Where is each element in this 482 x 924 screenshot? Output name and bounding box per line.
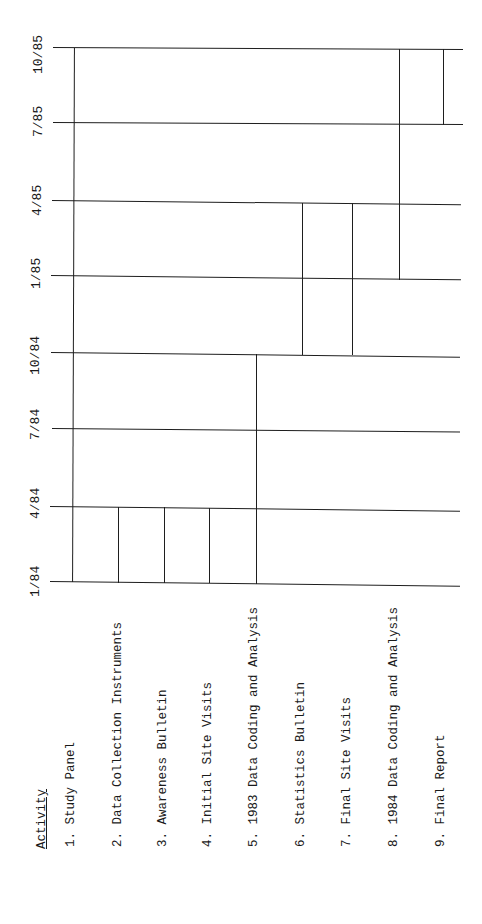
tick-label-1-84: 1/84: [28, 566, 43, 597]
activity-label-1: 1. Study Panel: [64, 742, 78, 847]
gridline-1-84: [50, 581, 460, 587]
tick-label-7-85: 7/85: [31, 106, 46, 137]
activity-label-4: 4. Initial Site Visits: [201, 682, 215, 847]
bar-initial-site-visits: [209, 508, 210, 583]
activity-heading: Activity: [35, 789, 49, 849]
gridline-7-85: [53, 122, 463, 125]
bar-statistics-bulletin: [302, 203, 303, 355]
activity-label-2: 2. Data Collection Instruments: [111, 622, 125, 847]
activity-label-8: 8. 1984 Data Coding and Analysis: [387, 607, 401, 847]
gridline-4-84: [50, 506, 460, 512]
activity-label-9: 9. Final Report: [434, 734, 448, 847]
bar-1983-data-coding: [256, 354, 257, 584]
bar-awareness-bulletin: [164, 507, 165, 583]
activity-label-7: 7. Final Site Visits: [340, 697, 354, 847]
tick-label-4-85: 4/85: [30, 185, 45, 216]
tick-label-10-85: 10/85: [31, 35, 46, 74]
activity-label-6: 6. Statistics Bulletin: [294, 682, 308, 847]
activity-label-3: 3. Awareness Bulletin: [156, 689, 170, 847]
bar-study-panel: [72, 48, 75, 582]
gantt-chart: 10/85 7/85 4/85 1/85 10/84 7/84 4/84 1/8…: [0, 0, 482, 924]
bar-final-site-visits: [352, 203, 353, 355]
tick-label-1-85: 1/85: [29, 258, 44, 289]
tick-label-4-84: 4/84: [28, 488, 43, 519]
bar-data-collection-instruments: [118, 507, 119, 583]
tick-label-7-84: 7/84: [28, 409, 43, 440]
gridline-10-85: [53, 47, 463, 50]
bar-final-report: [443, 49, 444, 125]
tick-label-10-84: 10/84: [28, 336, 43, 375]
activity-label-5: 5. 1983 Data Coding and Analysis: [247, 607, 261, 847]
bar-1984-data-coding: [399, 49, 400, 280]
